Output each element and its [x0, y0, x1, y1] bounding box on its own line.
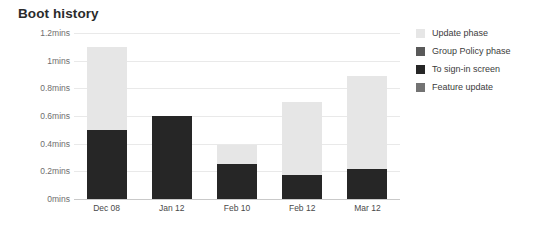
legend-swatch-icon	[416, 29, 425, 38]
bar-segment[interactable]	[347, 169, 387, 199]
legend-swatch-icon	[416, 83, 425, 92]
y-axis-tick-label: 1mins	[20, 56, 70, 66]
legend-swatch-icon	[416, 47, 425, 56]
legend-swatch-icon	[416, 65, 425, 74]
x-axis-tick-label: Mar 12	[337, 203, 397, 213]
y-axis: 1.2mins1mins0.8mins0.6mins0.4mins0.2mins…	[20, 33, 70, 199]
legend-item-label: Group Policy phase	[432, 47, 511, 56]
bar-segment[interactable]	[87, 47, 127, 130]
chart-legend: Update phaseGroup Policy phaseTo sign-in…	[416, 25, 534, 97]
bar-stack[interactable]	[282, 102, 322, 199]
gridline	[74, 199, 400, 200]
x-axis: Dec 08Jan 12Feb 10Feb 12Mar 12	[74, 203, 400, 219]
boot-history-chart-card: Boot history 1.2mins1mins0.8mins0.6mins0…	[0, 0, 536, 235]
plot-area	[74, 33, 400, 199]
legend-item[interactable]: Update phase	[416, 25, 534, 42]
y-axis-tick-label: 0.2mins	[20, 166, 70, 176]
legend-item-label: Feature update	[432, 83, 493, 92]
x-axis-tick-label: Feb 10	[207, 203, 267, 213]
legend-item[interactable]: Group Policy phase	[416, 43, 534, 60]
x-axis-tick-label: Dec 08	[77, 203, 137, 213]
legend-item[interactable]: Feature update	[416, 79, 534, 96]
bar-segment[interactable]	[282, 175, 322, 199]
bar-segment[interactable]	[152, 116, 192, 199]
bar-stack[interactable]	[152, 116, 192, 199]
x-axis-tick-label: Jan 12	[142, 203, 202, 213]
y-axis-tick-label: 1.2mins	[20, 28, 70, 38]
bar-segment[interactable]	[217, 145, 257, 164]
x-axis-tick-label: Feb 12	[272, 203, 332, 213]
bar-segment[interactable]	[87, 130, 127, 199]
y-axis-tick-label: 0.4mins	[20, 139, 70, 149]
bar-segment[interactable]	[217, 164, 257, 199]
y-axis-tick-label: 0.8mins	[20, 83, 70, 93]
page-title: Boot history	[18, 6, 99, 21]
y-axis-tick-label: 0mins	[20, 194, 70, 204]
y-axis-tick-label: 0.6mins	[20, 111, 70, 121]
legend-item-label: To sign-in screen	[432, 65, 500, 74]
bar-stack[interactable]	[217, 145, 257, 199]
bar-stack[interactable]	[87, 47, 127, 199]
legend-item[interactable]: To sign-in screen	[416, 61, 534, 78]
bar-stack[interactable]	[347, 76, 387, 199]
legend-item-label: Update phase	[432, 29, 488, 38]
gridline	[74, 33, 400, 34]
bar-segment[interactable]	[347, 76, 387, 169]
bar-segment[interactable]	[282, 102, 322, 175]
